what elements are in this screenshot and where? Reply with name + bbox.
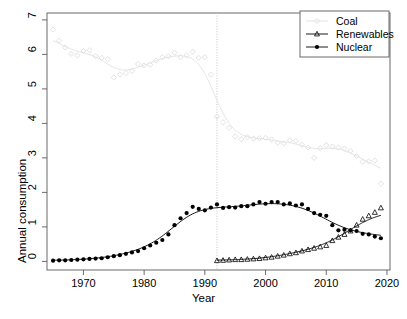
x-axis-title: Year [0, 292, 407, 304]
x-tick-label: 2010 [306, 277, 346, 289]
chart-figure: 197019801990200020102020 01234567 Year A… [0, 0, 407, 319]
y-tick-label: 4 [26, 115, 38, 129]
x-tick-label: 1990 [185, 277, 225, 289]
x-tick-label: 1970 [63, 277, 103, 289]
y-tick-label: 5 [26, 81, 38, 95]
legend-item-renewables: Renewables [336, 28, 394, 40]
legend-item-coal: Coal [336, 15, 358, 27]
series-nuclear [51, 200, 383, 263]
legend-item-nuclear: Nuclear [336, 41, 372, 53]
x-tick-label: 1980 [124, 277, 164, 289]
y-tick-label: 6 [26, 46, 38, 60]
y-tick-label: 7 [26, 12, 38, 26]
x-tick-label: 2000 [246, 277, 286, 289]
y-axis-title: Annual consumption [16, 159, 28, 263]
x-tick-label: 2020 [367, 277, 407, 289]
data-series-group [50, 27, 383, 263]
series-renewables [214, 205, 383, 262]
